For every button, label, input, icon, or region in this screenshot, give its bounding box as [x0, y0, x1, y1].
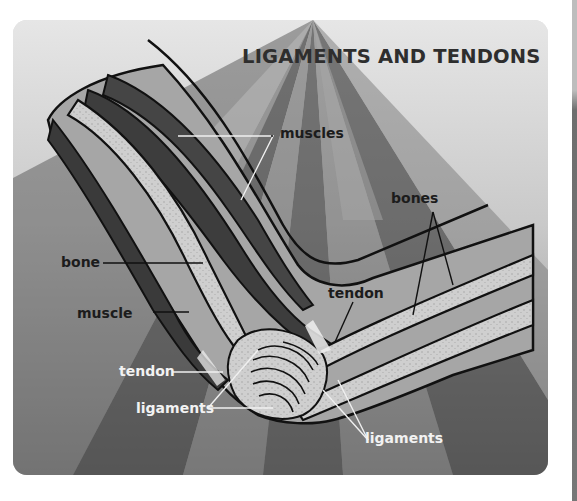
- diagram-title: LIGAMENTS AND TENDONS: [242, 45, 541, 68]
- label-ligaments-left: ligaments: [136, 400, 214, 416]
- elbow-joint: [228, 329, 327, 419]
- label-muscle: muscle: [77, 305, 132, 321]
- arm-illustration: [13, 20, 548, 475]
- page-edge-strip: [572, 0, 577, 501]
- label-bone: bone: [61, 254, 100, 270]
- label-muscles: muscles: [280, 125, 344, 141]
- label-tendon-lower: tendon: [119, 363, 175, 379]
- diagram-panel: LIGAMENTS AND TENDONS muscles bones bone…: [13, 20, 548, 475]
- label-bones: bones: [391, 190, 438, 206]
- label-ligaments-right: ligaments: [365, 430, 443, 446]
- label-tendon-upper: tendon: [328, 285, 384, 301]
